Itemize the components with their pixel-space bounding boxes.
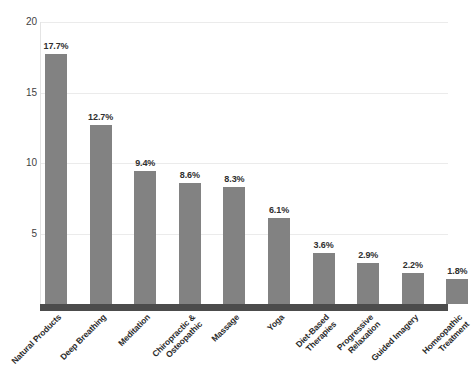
bar[interactable] [357, 263, 379, 304]
bar[interactable] [90, 125, 112, 304]
bar-value-label: 9.4% [122, 158, 168, 168]
bar[interactable] [446, 279, 468, 304]
y-tick-label: 15 [11, 88, 37, 98]
bar-value-label: 2.2% [390, 260, 436, 270]
bar-value-label: 8.6% [167, 170, 213, 180]
y-axis-line [40, 22, 41, 304]
bar-value-label: 12.7% [78, 112, 124, 122]
bar[interactable] [134, 171, 156, 304]
bar[interactable] [223, 187, 245, 304]
bar[interactable] [179, 183, 201, 304]
bar[interactable] [45, 54, 67, 304]
gridline [40, 93, 448, 94]
bar-value-label: 6.1% [256, 205, 302, 215]
bar-value-label: 3.6% [301, 240, 347, 250]
gridline [40, 22, 448, 23]
bar-value-label: 17.7% [33, 41, 79, 51]
bar[interactable] [268, 218, 290, 304]
y-tick-label: 5 [11, 229, 37, 239]
x-tick-label: Natural Products [0, 312, 63, 388]
bar-value-label: 8.3% [211, 174, 257, 184]
x-axis-baseline [40, 304, 448, 311]
bar[interactable] [313, 253, 335, 304]
y-tick-label: 10 [11, 158, 37, 168]
bar-value-label: 1.8% [434, 266, 475, 276]
bar-value-label: 2.9% [345, 250, 391, 260]
bar[interactable] [402, 273, 424, 304]
y-tick-label: 20 [11, 17, 37, 27]
